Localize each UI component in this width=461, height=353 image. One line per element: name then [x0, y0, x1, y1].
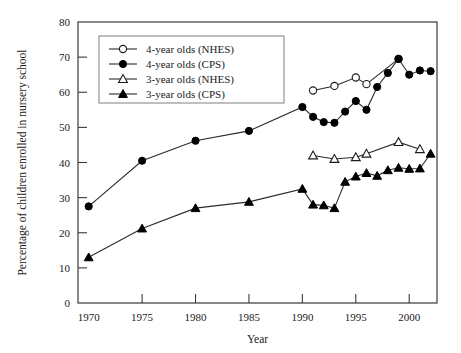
- nursery-school-enrollment-chart: 0102030405060708019701975198019851990199…: [0, 0, 461, 353]
- x-tick-label-1990: 1990: [291, 311, 314, 323]
- data-point-1-11: [374, 83, 381, 90]
- y-tick-label-30: 30: [59, 192, 71, 204]
- x-axis-title: Year: [247, 333, 268, 345]
- y-tick-label-60: 60: [59, 86, 71, 98]
- legend-label-0: 4-year olds (NHES): [146, 43, 234, 56]
- data-point-3-1: [138, 224, 147, 232]
- data-point-1-8: [342, 108, 349, 115]
- y-tick-label-70: 70: [59, 51, 71, 63]
- data-point-1-1: [139, 157, 146, 164]
- data-point-1-12: [384, 69, 391, 76]
- data-point-0-1: [331, 82, 338, 89]
- data-point-2-4: [394, 138, 403, 146]
- data-point-1-13: [395, 55, 402, 62]
- data-point-3-4: [298, 184, 307, 192]
- data-point-0-0: [309, 87, 316, 94]
- x-tick-label-1970: 1970: [78, 311, 101, 323]
- data-point-1-15: [416, 67, 423, 74]
- legend-label-2: 3-year olds (NHES): [146, 73, 234, 86]
- data-point-1-2: [192, 137, 199, 144]
- data-point-2-0: [309, 151, 318, 159]
- x-tick-label-1985: 1985: [238, 311, 261, 323]
- data-point-1-16: [427, 68, 434, 75]
- series-line-3: [89, 154, 431, 258]
- x-tick-label-1980: 1980: [185, 311, 208, 323]
- data-point-1-3: [245, 127, 252, 134]
- data-point-1-5: [309, 113, 316, 120]
- data-point-3-0: [84, 253, 93, 261]
- x-tick-label-2000: 2000: [398, 311, 421, 323]
- chart-canvas: 0102030405060708019701975198019851990199…: [0, 0, 461, 353]
- x-tick-label-1975: 1975: [131, 311, 154, 323]
- data-point-3-10: [362, 169, 371, 177]
- y-tick-label-0: 0: [65, 297, 71, 309]
- data-point-3-8: [341, 177, 350, 185]
- data-point-0-2: [352, 74, 359, 81]
- data-point-1-4: [299, 103, 306, 110]
- data-point-3-5: [309, 200, 318, 208]
- y-tick-label-50: 50: [59, 121, 71, 133]
- y-tick-label-10: 10: [59, 262, 71, 274]
- y-axis-title: Percentage of children enrolled in nurse…: [16, 49, 29, 275]
- legend-label-1: 4-year olds (CPS): [146, 58, 225, 71]
- data-point-1-0: [85, 203, 92, 210]
- legend-marker-open-circle: [119, 45, 126, 52]
- y-tick-label-80: 80: [59, 16, 71, 28]
- data-point-1-10: [363, 106, 370, 113]
- data-point-3-13: [394, 163, 403, 171]
- data-point-1-14: [406, 71, 413, 78]
- data-point-2-3: [362, 149, 371, 157]
- data-point-3-15: [416, 164, 425, 172]
- y-tick-label-40: 40: [59, 157, 71, 169]
- legend-label-3: 3-year olds (CPS): [146, 88, 225, 101]
- y-tick-label-20: 20: [59, 227, 71, 239]
- data-point-1-9: [352, 97, 359, 104]
- x-tick-label-1995: 1995: [345, 311, 368, 323]
- data-point-1-6: [320, 119, 327, 126]
- data-point-0-3: [363, 81, 370, 88]
- data-point-1-7: [331, 119, 338, 126]
- legend-marker-solid-circle: [119, 60, 126, 67]
- data-point-3-16: [426, 149, 435, 157]
